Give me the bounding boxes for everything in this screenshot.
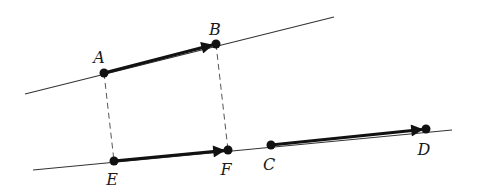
- vec-CD: [271, 129, 422, 145]
- label-C: C: [263, 157, 275, 173]
- label-B: B: [209, 22, 221, 38]
- vector-diagram: [0, 0, 481, 189]
- dash-BF: [216, 44, 228, 150]
- diagram-canvas: A B E F C D: [0, 0, 481, 189]
- dashed-projections: [104, 44, 228, 161]
- parallel-lines: [25, 17, 452, 170]
- points: [100, 40, 431, 166]
- point-B: [212, 40, 221, 49]
- line-EFCD: [33, 130, 452, 170]
- line-AB: [25, 17, 334, 94]
- vec-AB: [104, 45, 212, 73]
- point-A: [100, 69, 109, 78]
- label-F: F: [220, 162, 231, 178]
- point-D: [422, 125, 431, 134]
- point-C: [267, 141, 276, 150]
- label-D: D: [418, 142, 431, 158]
- point-F: [224, 146, 233, 155]
- point-E: [110, 157, 119, 166]
- label-E: E: [106, 172, 118, 188]
- dash-AE: [104, 73, 114, 161]
- vec-EF: [114, 150, 224, 161]
- label-A: A: [93, 50, 105, 66]
